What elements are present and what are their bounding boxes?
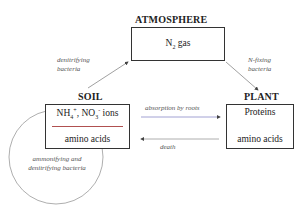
circle-label-line1: ammonifying and: [12, 155, 102, 164]
nitrate-subscript: 3: [95, 114, 98, 120]
circle-label-line2: denitrifying bacteria: [12, 164, 102, 173]
atmosphere-box-text: N2 gas: [132, 38, 224, 50]
n-fixing-bacteria-label: N-fixing bacteria: [248, 56, 271, 73]
denitrifying-label-line2: bacteria: [57, 65, 90, 74]
ammonium-subscript: 4: [70, 114, 73, 120]
absorption-by-roots-label: absorption by roots: [145, 104, 200, 113]
ammonium-symbol: NH: [57, 108, 71, 118]
denitrifying-label-line1: denitrifying: [57, 56, 90, 65]
soil-divider: [52, 126, 123, 127]
soil-heading: SOIL: [78, 91, 103, 102]
nitrate-symbol: , NO: [77, 108, 95, 118]
soil-amino-acids-text: amino acids: [46, 134, 129, 144]
ammonifying-bacteria-label: ammonifying and denitrifying bacteria: [12, 155, 102, 172]
plant-proteins-text: Proteins: [227, 107, 293, 117]
n-fixing-label-line1: N-fixing: [248, 56, 271, 65]
atmosphere-heading: ATMOSPHERE: [135, 14, 207, 25]
plant-box: Proteins amino acids: [226, 104, 294, 149]
plant-amino-acids-text: amino acids: [227, 134, 293, 144]
n-fixing-label-line2: bacteria: [248, 65, 271, 74]
plant-heading: PLANT: [244, 91, 279, 102]
atmosphere-box: N2 gas: [131, 27, 225, 61]
gas-label: gas: [175, 38, 190, 48]
ions-label: ions: [100, 108, 118, 118]
soil-box: NH4+, NO3- ions amino acids: [45, 104, 130, 149]
denitrifying-bacteria-label: denitrifying bacteria: [57, 56, 90, 73]
death-label: death: [160, 143, 176, 152]
denitrification-arrow: [88, 62, 128, 88]
soil-ions-text: NH4+, NO3- ions: [46, 107, 129, 120]
